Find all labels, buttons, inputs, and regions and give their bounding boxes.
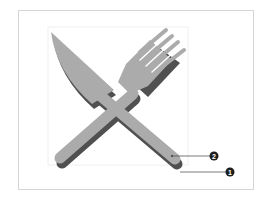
callout-1: 1 <box>226 168 235 177</box>
svg-text:1: 1 <box>228 169 232 176</box>
callout-2: 2 <box>210 152 219 161</box>
cutlery-illustration: 2 1 <box>0 0 267 204</box>
leader-anchor-2 <box>171 155 173 157</box>
svg-text:2: 2 <box>212 153 216 160</box>
